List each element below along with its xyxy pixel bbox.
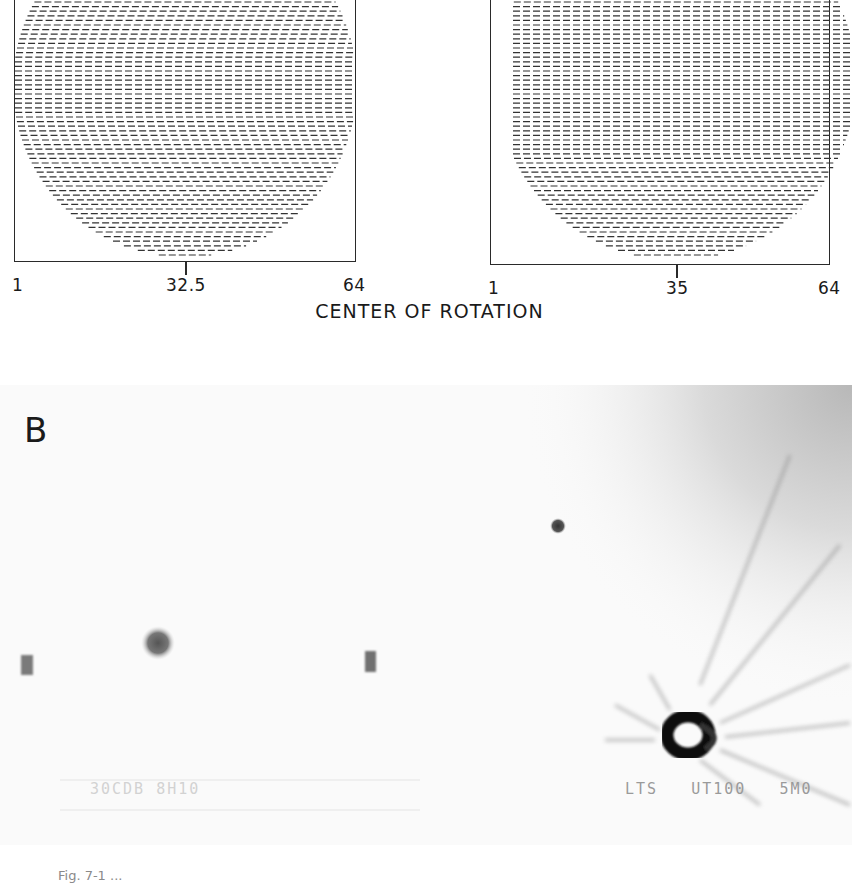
left-rotation-plot: 1 32.5 64	[0, 0, 430, 290]
panel-b-letter: B	[24, 410, 47, 450]
left-dashed-disc	[0, 0, 430, 262]
blob-source	[141, 626, 175, 660]
center-of-rotation-title: CENTER OF ROTATION	[0, 300, 859, 322]
panel-b-photo-graphic	[0, 385, 852, 845]
left-axis-min: 1	[12, 275, 23, 295]
left-axis-max: 64	[343, 275, 366, 295]
overlay-left-label: 30CDB 8H10	[90, 780, 200, 798]
overlay-right-label: LTS UT100 5M0	[625, 780, 813, 798]
right-axis-max: 64	[818, 278, 841, 298]
right-center-tick	[676, 264, 678, 278]
right-axis-min: 1	[488, 278, 499, 298]
bar-source-middle	[365, 651, 376, 672]
left-center-tick	[185, 261, 187, 275]
small-dot-source	[550, 518, 566, 534]
figure-caption-fragment: Fig. 7-1 ...	[58, 868, 122, 883]
right-dashed-disc	[430, 0, 859, 265]
left-axis-center: 32.5	[166, 275, 206, 295]
bar-source-left	[21, 655, 33, 675]
panel-b-image: B 30CDB 8H10 LTS UT100 5M0	[0, 385, 852, 845]
right-axis-center: 35	[666, 278, 689, 298]
right-rotation-plot: 1 35 64	[430, 0, 859, 290]
